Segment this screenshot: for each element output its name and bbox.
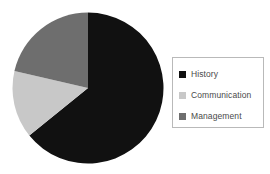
- legend-swatch-history: [179, 71, 186, 78]
- legend-item-history[interactable]: History: [179, 64, 263, 84]
- legend-label-history: History: [191, 69, 218, 79]
- chart-legend: History Communication Management: [172, 57, 264, 128]
- legend-label-management: Management: [191, 111, 242, 121]
- pie-slice-group: [12, 13, 163, 164]
- legend-swatch-management: [179, 113, 186, 120]
- legend-label-communication: Communication: [191, 90, 251, 100]
- legend-swatch-communication: [179, 92, 186, 99]
- legend-item-communication[interactable]: Communication: [179, 85, 263, 105]
- pie-chart-figure: History Communication Management: [0, 0, 270, 174]
- legend-item-management[interactable]: Management: [179, 106, 263, 126]
- pie-svg: [12, 12, 164, 164]
- pie-plot-area: [12, 12, 164, 164]
